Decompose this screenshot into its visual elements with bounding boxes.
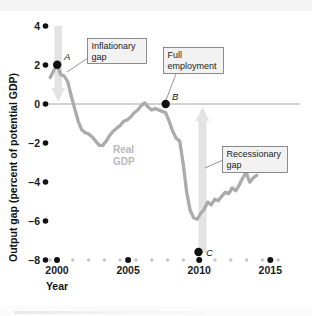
real-gdp-line bbox=[50, 65, 257, 220]
data-point-b bbox=[162, 100, 170, 108]
recessionary-gap-line1: Recessionary bbox=[227, 149, 282, 159]
x-tick-dot-2015 bbox=[267, 257, 273, 263]
y-tick-label-minus8: –8 bbox=[28, 254, 40, 266]
x-axis-minor-ticks bbox=[49, 258, 280, 261]
x-tick-label-2005: 2005 bbox=[116, 264, 140, 276]
y-tick-dot-minus4 bbox=[43, 179, 49, 185]
full-employment-line2: employment bbox=[168, 61, 218, 71]
recessionary-gap-line2: gap bbox=[227, 160, 242, 170]
series-label-gdp: GDP bbox=[113, 156, 135, 167]
y-tick-dot-0 bbox=[43, 101, 49, 107]
x-axis-title: Year bbox=[46, 280, 68, 292]
full-employment-line1: Full bbox=[168, 50, 183, 60]
y-axis-ticks: 4 2 0 –2 –4 –6 –8 bbox=[28, 20, 48, 266]
y-tick-dot-2 bbox=[43, 62, 49, 68]
y-tick-dot-minus8 bbox=[43, 257, 49, 263]
data-point-a bbox=[53, 60, 61, 68]
inflationary-gap-line1: Inflationary bbox=[92, 41, 137, 51]
x-tick-label-2015: 2015 bbox=[259, 264, 283, 276]
y-tick-label-0: 0 bbox=[34, 98, 40, 110]
recessionary-gap-arrow bbox=[196, 107, 210, 253]
y-tick-label-minus4: –4 bbox=[28, 176, 40, 188]
x-tick-label-2000: 2000 bbox=[45, 264, 69, 276]
inflationary-gap-line2: gap bbox=[92, 52, 107, 62]
x-tick-dot-2000 bbox=[54, 257, 60, 263]
x-tick-dot-2005 bbox=[125, 257, 131, 263]
y-tick-label-minus2: –2 bbox=[28, 137, 40, 149]
chart-figure: 4 2 0 –2 –4 –6 –8 Output gap (percent of… bbox=[0, 0, 312, 316]
x-tick-dot-2010 bbox=[196, 257, 202, 263]
series-label-real: Real bbox=[113, 144, 134, 155]
data-point-b-label: B bbox=[172, 91, 179, 102]
y-tick-dot-minus2 bbox=[43, 140, 49, 146]
output-gap-line-chart: 4 2 0 –2 –4 –6 –8 Output gap (percent of… bbox=[0, 0, 312, 316]
x-tick-label-2010: 2010 bbox=[188, 264, 212, 276]
y-axis-title: Output gap (percent of potential GDP) bbox=[7, 73, 19, 262]
recessionary-gap-leader bbox=[205, 160, 223, 168]
y-tick-dot-minus6 bbox=[43, 218, 49, 224]
y-tick-dot-4 bbox=[43, 23, 49, 29]
data-point-a-label: A bbox=[63, 51, 70, 62]
y-tick-label-2: 2 bbox=[34, 59, 40, 71]
y-tick-label-minus6: –6 bbox=[28, 215, 40, 227]
data-point-c bbox=[194, 248, 202, 256]
data-point-c-label: C bbox=[206, 247, 213, 258]
y-tick-label-4: 4 bbox=[34, 20, 40, 32]
